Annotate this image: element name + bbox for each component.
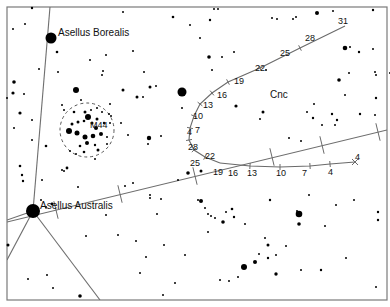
- star: [27, 278, 29, 280]
- star: [308, 194, 310, 196]
- star: [359, 113, 361, 115]
- star: [31, 139, 33, 141]
- star: [219, 279, 221, 281]
- star: [377, 211, 379, 213]
- star-chart: 312825221916131074282225 19161310744 M44…: [0, 0, 390, 307]
- cluster-star: [84, 111, 87, 114]
- cluster-star: [83, 120, 86, 123]
- star: [85, 235, 87, 237]
- star: [259, 118, 261, 120]
- star: [41, 179, 43, 181]
- cluster-star: [75, 153, 77, 155]
- date-label: 28: [305, 33, 315, 43]
- star: [122, 11, 124, 13]
- star: [312, 117, 314, 119]
- star: [217, 8, 219, 10]
- star: [237, 276, 239, 278]
- star-name-label: Asellus Australis: [40, 200, 113, 211]
- star: [207, 213, 209, 215]
- star: [331, 113, 333, 115]
- star: [233, 216, 235, 218]
- star: [6, 97, 8, 99]
- star: [139, 272, 141, 274]
- star: [213, 8, 215, 10]
- star: [101, 74, 103, 76]
- star: [94, 158, 96, 160]
- star: [349, 46, 351, 48]
- star: [149, 197, 151, 199]
- star: [358, 51, 360, 53]
- cluster-star: [66, 128, 72, 134]
- date-label: 7: [302, 168, 307, 178]
- date-label: 25: [190, 158, 200, 168]
- star: [147, 143, 149, 145]
- star: [178, 88, 187, 97]
- cluster-star: [106, 143, 108, 145]
- star: [186, 171, 190, 175]
- star: [117, 234, 119, 236]
- star: [306, 111, 308, 113]
- star: [172, 16, 175, 19]
- star: [46, 274, 48, 276]
- chart-frame: [7, 7, 387, 300]
- date-label: 19: [213, 167, 223, 177]
- cluster-star: [69, 150, 71, 152]
- date-label: 16: [217, 90, 227, 100]
- star: [31, 119, 33, 121]
- star: [132, 50, 134, 52]
- star: [122, 89, 125, 92]
- star: [295, 16, 297, 18]
- star: [63, 170, 65, 172]
- star: [244, 223, 246, 225]
- star: [31, 7, 33, 9]
- star: [353, 199, 355, 201]
- star: [22, 180, 24, 182]
- star: [163, 244, 165, 246]
- star: [189, 24, 191, 26]
- star: [11, 91, 14, 94]
- star: [234, 104, 237, 107]
- date-label: 13: [247, 168, 257, 178]
- cluster-star: [83, 151, 86, 154]
- named-star: [46, 33, 57, 44]
- star: [24, 23, 26, 25]
- star: [155, 85, 157, 87]
- cluster-star: [94, 144, 96, 146]
- star: [267, 257, 269, 259]
- star: [315, 11, 319, 15]
- star: [177, 179, 179, 181]
- star: [269, 199, 271, 201]
- star: [375, 74, 377, 76]
- star: [160, 198, 162, 200]
- star: [38, 68, 40, 70]
- date-label: 4: [187, 127, 192, 137]
- star: [73, 87, 79, 93]
- cluster-star: [90, 109, 92, 111]
- star: [120, 122, 122, 124]
- star: [275, 254, 277, 256]
- star: [344, 94, 346, 96]
- cluster-star: [91, 134, 96, 139]
- star: [221, 220, 225, 224]
- star: [320, 269, 322, 271]
- star: [214, 217, 216, 219]
- date-label: 22: [255, 63, 265, 73]
- star: [45, 145, 48, 148]
- star: [321, 124, 323, 126]
- star: [61, 104, 63, 106]
- star: [136, 96, 139, 99]
- star: [145, 256, 147, 258]
- star: [258, 253, 260, 255]
- star: [374, 71, 376, 73]
- star: [197, 199, 199, 201]
- star: [149, 86, 152, 89]
- date-label: 10: [193, 111, 203, 121]
- cluster-star: [97, 149, 100, 152]
- star: [142, 96, 144, 98]
- cluster-star: [63, 109, 65, 111]
- star: [7, 244, 10, 247]
- star: [199, 37, 201, 39]
- date-label: 10: [276, 168, 286, 178]
- star: [149, 194, 151, 196]
- star: [132, 182, 134, 184]
